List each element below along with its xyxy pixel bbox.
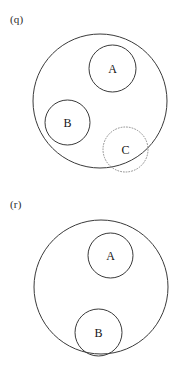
panel-r-diagram (0, 191, 182, 382)
panel-q-set-a-circle (89, 45, 136, 92)
panel-q-outer-universe-circle (33, 34, 167, 168)
panel-q-diagram (0, 0, 182, 191)
panel-q-set-c-circle (103, 127, 148, 172)
panel-r-outer-universe-circle (34, 220, 168, 354)
panel-r-set-a-circle (88, 233, 133, 278)
panel-r: (r) A B (0, 191, 182, 382)
panel-r-set-b-circle (75, 309, 122, 356)
panel-q: (q) A B C (0, 0, 182, 191)
panel-q-set-b-circle (45, 100, 90, 145)
